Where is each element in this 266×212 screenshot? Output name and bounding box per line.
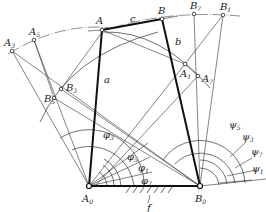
pivot-A0 xyxy=(87,184,92,189)
point-A3 xyxy=(10,49,14,53)
position-arcs xyxy=(8,15,240,123)
label-f: f xyxy=(146,202,153,212)
point-A7 xyxy=(196,74,200,78)
output-angle-arcs xyxy=(163,141,256,185)
svg-text:B7: B7 xyxy=(189,0,201,12)
svg-text:φ5: φ5 xyxy=(127,151,138,163)
point-B3 xyxy=(59,87,63,91)
point-A xyxy=(100,28,104,32)
pivot-B0 xyxy=(198,184,203,189)
svg-text:B3: B3 xyxy=(65,82,77,94)
label-a: a xyxy=(104,74,110,85)
svg-text:φ3: φ3 xyxy=(103,129,114,141)
point-B7 xyxy=(192,12,196,16)
svg-text:B1: B1 xyxy=(219,1,231,13)
svg-text:φ1: φ1 xyxy=(138,162,149,174)
label-b: b xyxy=(175,36,181,47)
svg-text:A5: A5 xyxy=(28,26,40,38)
ground-hatching xyxy=(126,187,172,203)
svg-text:B5: B5 xyxy=(43,93,55,105)
svg-text:φ7: φ7 xyxy=(141,175,152,187)
svg-text:A: A xyxy=(95,15,103,26)
svg-text:ψ5: ψ5 xyxy=(229,119,241,131)
svg-text:A1: A1 xyxy=(179,68,191,80)
svg-text:B: B xyxy=(157,5,165,16)
svg-text:ψ1: ψ1 xyxy=(252,163,264,175)
svg-text:B0: B0 xyxy=(194,193,206,205)
point-A1 xyxy=(183,62,187,66)
four-bar-linkage-diagram: A B A3 A5 B7 B1 B3 B5 A1 A7 A0 B0 a b c … xyxy=(0,0,266,212)
input-angle-labels: φ3 φ5 φ1 φ7 xyxy=(103,129,152,187)
point-B xyxy=(160,17,164,21)
svg-text:A0: A0 xyxy=(81,193,93,205)
point-A5 xyxy=(32,38,36,42)
svg-text:A3: A3 xyxy=(3,37,15,49)
label-c: c xyxy=(130,13,136,24)
svg-text:ψ3: ψ3 xyxy=(242,131,254,143)
point-B1 xyxy=(221,13,225,17)
output-angle-labels: ψ5 ψ3 ψ7 ψ1 xyxy=(229,119,264,175)
linkage xyxy=(89,19,200,186)
svg-text:ψ7: ψ7 xyxy=(251,146,263,158)
svg-text:A7: A7 xyxy=(201,73,213,85)
